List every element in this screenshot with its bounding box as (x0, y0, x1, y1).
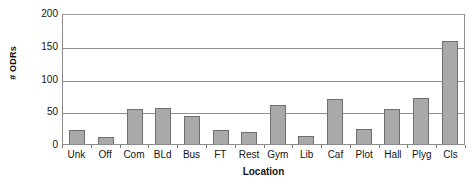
y-tick-label: 0 (24, 140, 58, 150)
x-tick-label: Off (91, 148, 120, 164)
bar-slot (407, 15, 436, 144)
x-tick-label: Plyg (407, 148, 436, 164)
bar-slot (178, 15, 207, 144)
bar[interactable] (384, 109, 400, 144)
x-tick-label: Gym (263, 148, 292, 164)
x-tick-label: Rest (235, 148, 264, 164)
bar-slot (292, 15, 321, 144)
bar-slot (149, 15, 178, 144)
plot-area (62, 14, 465, 145)
x-tick-label: Lib (292, 148, 321, 164)
x-tick-label: BLd (148, 148, 177, 164)
x-tick-label: Bus (177, 148, 206, 164)
bar-slot (321, 15, 350, 144)
x-axis-tick-labels: UnkOffComBLdBusFTRestGymLibCafPlotHallPl… (62, 148, 465, 164)
y-tick-label: 200 (24, 9, 58, 19)
x-tick-label: Cls (436, 148, 465, 164)
bar[interactable] (69, 130, 85, 144)
x-tick-label: FT (206, 148, 235, 164)
x-tick-label: Caf (321, 148, 350, 164)
bar[interactable] (213, 130, 229, 144)
x-tick-label: Plot (350, 148, 379, 164)
bar-chart: # ODRs 050100150200 UnkOffComBLdBusFTRes… (0, 0, 475, 188)
bar-slot (63, 15, 92, 144)
bar-slot (206, 15, 235, 144)
bar[interactable] (98, 137, 114, 144)
bar[interactable] (241, 132, 257, 144)
bar-slot (378, 15, 407, 144)
bar[interactable] (413, 98, 429, 144)
bar-slot (263, 15, 292, 144)
bar[interactable] (184, 116, 200, 144)
bar[interactable] (270, 105, 286, 144)
bar-slot (235, 15, 264, 144)
y-axis-tick-labels: 050100150200 (22, 0, 58, 188)
x-tick-label: Hall (379, 148, 408, 164)
y-tick-label: 150 (24, 42, 58, 52)
bar[interactable] (127, 109, 143, 144)
bar-slot (120, 15, 149, 144)
x-axis-title: Location (62, 166, 465, 177)
bar-slot (349, 15, 378, 144)
x-tick-mark (465, 145, 466, 148)
bar-slot (92, 15, 121, 144)
bar-slot (435, 15, 464, 144)
bar[interactable] (442, 41, 458, 144)
y-tick-label: 50 (24, 107, 58, 117)
y-axis-title: # ODRs (8, 33, 18, 93)
x-tick-label: Unk (62, 148, 91, 164)
y-tick-label: 100 (24, 75, 58, 85)
x-tick-label: Com (120, 148, 149, 164)
bar[interactable] (298, 136, 314, 145)
bar[interactable] (356, 129, 372, 144)
bar[interactable] (327, 99, 343, 144)
bar[interactable] (155, 108, 171, 144)
bar-series (63, 15, 464, 144)
